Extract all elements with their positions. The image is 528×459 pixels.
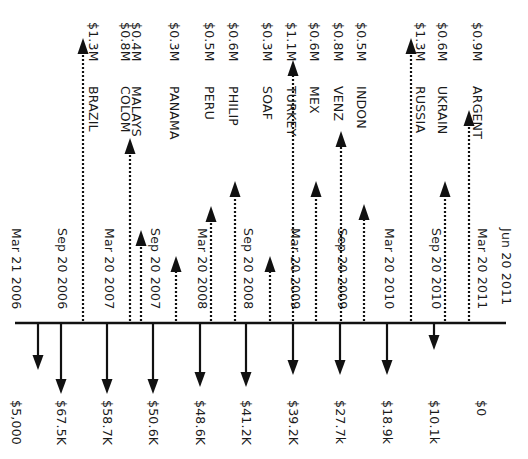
outflow-amount-label: $67.5K [55, 400, 68, 445]
date-label: Sep 20 2006 [56, 228, 69, 309]
outflow-amount-label: $39.2K [287, 400, 300, 445]
arrow-up-icon [230, 181, 241, 197]
outflow-amount-label: $41.2K [240, 400, 253, 445]
arrow-down-icon [56, 379, 67, 394]
inflow-amount-label: $0.5M [355, 22, 368, 62]
inflow-country-label: MALAYS [130, 86, 143, 137]
inflow-country-label: MEX [308, 86, 321, 114]
inflow-country-label: PERU [203, 86, 216, 120]
outflow-amount-label: $0 [475, 400, 488, 416]
arrows-layer [0, 0, 528, 459]
inflow-amount-label: $0.6M [227, 22, 240, 62]
inflow-amount-label: $0.5M [203, 22, 216, 62]
outflow-amount-label: $58.7K [101, 400, 114, 445]
inflow-amount-label: $0.9M [471, 22, 484, 62]
arrow-down-icon [33, 355, 44, 370]
arrow-down-icon [335, 360, 346, 375]
arrow-up-icon [336, 131, 347, 147]
date-label: Sep 20 2008 [242, 228, 255, 309]
date-label: Mar 21 2006 [10, 228, 23, 309]
date-label: Mar 20 2010 [383, 228, 396, 309]
inflow-amount-label: $1.1M [285, 22, 298, 62]
date-label: Mar 20 2011 [476, 228, 489, 309]
arrow-up-icon [206, 206, 217, 222]
outflow-amount-label: $18.9k [381, 400, 394, 444]
inflow-amount-label: $1.3M [414, 22, 427, 62]
arrow-down-icon [288, 360, 299, 375]
cash-flow-diagram: Mar 21 2006Sep 20 2006Mar 20 2007Sep 20 … [0, 0, 528, 459]
inflow-country-label: PHILIP [227, 86, 240, 126]
arrow-up-icon [359, 204, 370, 220]
arrow-down-icon [102, 379, 113, 394]
arrow-down-icon [195, 372, 206, 387]
inflow-country-label: RUSSIA [414, 86, 427, 133]
arrow-up-icon [265, 256, 276, 272]
outflow-amount-label: $10.1k [428, 400, 441, 444]
inflow-amount-label: $0.3M [168, 22, 181, 62]
arrow-down-icon [241, 372, 252, 387]
outflow-amount-label: $48.6K [194, 400, 207, 445]
arrow-up-icon [171, 256, 182, 272]
arrow-down-icon [382, 360, 393, 375]
inflow-country-label: ARGENT [471, 86, 484, 139]
arrow-down-icon [429, 335, 440, 350]
arrow-up-icon [125, 138, 136, 154]
date-label: Sep 20 2009 [336, 228, 349, 309]
date-label: Mar 20 2009 [289, 228, 302, 309]
inflow-country-label: PANAMA [168, 86, 181, 140]
date-label: Mar 20 2008 [196, 228, 209, 309]
date-label: Mar 20 2007 [103, 228, 116, 309]
inflow-amount-label: $0.6M [308, 22, 321, 62]
inflow-amount-label: $0.4M [130, 22, 143, 62]
inflow-country-label: UKRAIN [436, 86, 449, 134]
outflow-amount-label: $50.6K [147, 400, 160, 445]
inflow-amount-label: $0.8M [332, 22, 345, 62]
inflow-amount-label: $0.3M [261, 22, 274, 62]
inflow-country-label: VENZ [332, 86, 345, 121]
inflow-country-label: BRAZIL [87, 86, 100, 132]
arrow-up-icon [440, 181, 451, 197]
date-label: Sep 20 2007 [149, 228, 162, 309]
arrow-up-icon [311, 181, 322, 197]
date-label: Jun 20 2011 [500, 228, 513, 305]
arrow-up-icon [136, 230, 147, 246]
inflow-country-label: SOAF [261, 86, 274, 120]
inflow-country-label: INDON [355, 86, 368, 129]
inflow-country-label: TURKEY [285, 86, 298, 136]
arrow-down-icon [148, 379, 159, 394]
inflow-amount-label: $0.6M [436, 22, 449, 62]
inflow-amount-label: $1.3M [87, 22, 100, 62]
date-label: Sep 20 2010 [430, 228, 443, 309]
outflow-amount-label: $5,000 [10, 400, 23, 445]
outflow-amount-label: $27.7k [334, 400, 347, 444]
arrow-up-icon [288, 60, 299, 76]
